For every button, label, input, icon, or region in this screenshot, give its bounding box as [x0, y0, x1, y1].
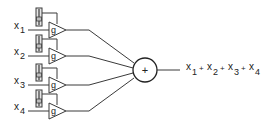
gain-slider[interactable] [36, 35, 42, 52]
summing-junction: + [133, 58, 157, 82]
to-summer-line [66, 56, 133, 68]
input-channel-1: x 1 g [14, 8, 134, 63]
input-label-var: x [14, 20, 19, 31]
input-label-var: x [14, 46, 19, 57]
gain-slider[interactable] [36, 8, 42, 26]
term-var: x [207, 61, 212, 72]
term-sub: 1 [192, 67, 197, 77]
input-label-var: x [14, 75, 19, 86]
input-label-sub: 3 [20, 80, 25, 90]
plus-operator: + [241, 64, 246, 73]
input-label-sub: 2 [20, 51, 25, 61]
term-var: x [186, 61, 191, 72]
slider-knob[interactable] [37, 44, 42, 48]
input-channel-3: x 3 g [14, 64, 133, 93]
to-summer-line [66, 73, 133, 85]
slider-knob[interactable] [37, 73, 42, 77]
term-sub: 3 [234, 67, 239, 77]
plus-operator: + [199, 64, 204, 73]
to-summer-line [66, 78, 134, 111]
input-channel-4: x 4 g [14, 78, 134, 119]
plus-operator: + [220, 64, 225, 73]
gain-label: g [51, 25, 56, 35]
summing-diagram: x 1 g x 2 g x 3 [0, 0, 274, 125]
output-expression: x 1 + x 2 + x 3 + x 4 [186, 61, 260, 77]
term-var: x [228, 61, 233, 72]
gain-label: g [51, 106, 56, 116]
gain-label: g [51, 80, 56, 90]
term-var: x [249, 61, 254, 72]
input-label-sub: 1 [20, 25, 25, 35]
to-summer-line [66, 30, 134, 63]
term-sub: 4 [255, 67, 260, 77]
plus-icon: + [142, 64, 148, 76]
term-sub: 2 [213, 67, 218, 77]
input-label-var: x [14, 101, 19, 112]
gain-slider[interactable] [36, 90, 42, 107]
slider-knob[interactable] [37, 17, 42, 21]
gain-slider[interactable] [36, 64, 42, 81]
input-label-sub: 4 [20, 106, 25, 116]
slider-knob[interactable] [37, 99, 42, 103]
gain-label: g [51, 51, 56, 61]
input-channel-2: x 2 g [14, 35, 133, 68]
